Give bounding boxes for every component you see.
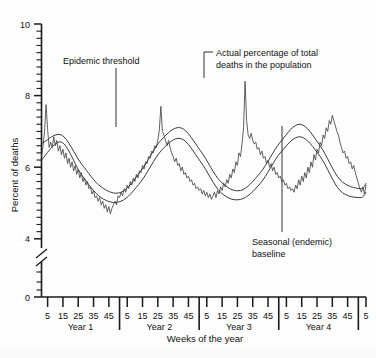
y-tick-label-8: 8 (25, 91, 30, 101)
x-tick-label: 45 (343, 311, 353, 321)
x-tick-label: 25 (232, 311, 242, 321)
footer-band (0, 347, 376, 358)
x-tick-label: 35 (327, 311, 337, 321)
influenza-mortality-chart: 10 8 6 4 0 51525354551525354551525354551… (0, 0, 376, 358)
x-tick-label: 5 (45, 311, 50, 321)
x-tick-label: 35 (248, 311, 258, 321)
x-tick-label: 15 (58, 311, 68, 321)
y-tick-label-4: 4 (25, 234, 30, 244)
year-label: Year 1 (68, 322, 94, 332)
x-tick-label: 5 (204, 311, 209, 321)
y-tick-label-0: 0 (25, 293, 30, 303)
series-layer (42, 81, 367, 213)
x-tick-group (48, 297, 366, 307)
year-label: Year 3 (226, 322, 252, 332)
annotation-seasonal-baseline-line2: baseline (252, 249, 286, 259)
year-label: Year 2 (147, 322, 173, 332)
x-tick-label: 25 (73, 311, 83, 321)
annotation-leaders (116, 52, 282, 232)
series-actual-percentage (42, 81, 367, 213)
series-seasonal-baseline (42, 137, 367, 203)
x-tick-label: 15 (138, 311, 148, 321)
x-tick-label: 45 (183, 311, 193, 321)
x-tick-label: 15 (297, 311, 307, 321)
x-tick-label: 25 (153, 311, 163, 321)
x-tick-label: 45 (104, 311, 114, 321)
series-epidemic-threshold (42, 124, 367, 193)
x-tick-label: 45 (263, 311, 273, 321)
y-tick-label-6: 6 (25, 163, 30, 173)
y-tick-label-10: 10 (20, 20, 30, 30)
chart-canvas: 10 8 6 4 0 51525354551525354551525354551… (0, 0, 376, 358)
year-label: Year 4 (306, 322, 332, 332)
x-tick-label-group: 5152535455152535455152535455152535455 (45, 311, 368, 321)
annotation-epidemic-threshold: Epidemic threshold (63, 56, 140, 66)
annotation-actual-percentage-line1: Actual percentage of total (216, 48, 318, 58)
y-tick-group: 10 8 6 4 0 (20, 20, 42, 303)
x-tick-label: 35 (89, 311, 99, 321)
annotation-actual-percentage-line2: deaths in the population (216, 60, 312, 70)
x-tick-label: 5 (284, 311, 289, 321)
x-tick-label: 15 (217, 311, 227, 321)
annotation-seasonal-baseline-line1: Seasonal (endemic) (252, 237, 332, 247)
x-tick-label: 5 (363, 311, 368, 321)
x-axis-title: Weeks of the year (167, 333, 243, 344)
x-tick-label: 35 (168, 311, 178, 321)
y-axis-title: Percent of deaths (9, 138, 20, 213)
x-tick-label: 25 (312, 311, 322, 321)
x-tick-label: 5 (125, 311, 130, 321)
